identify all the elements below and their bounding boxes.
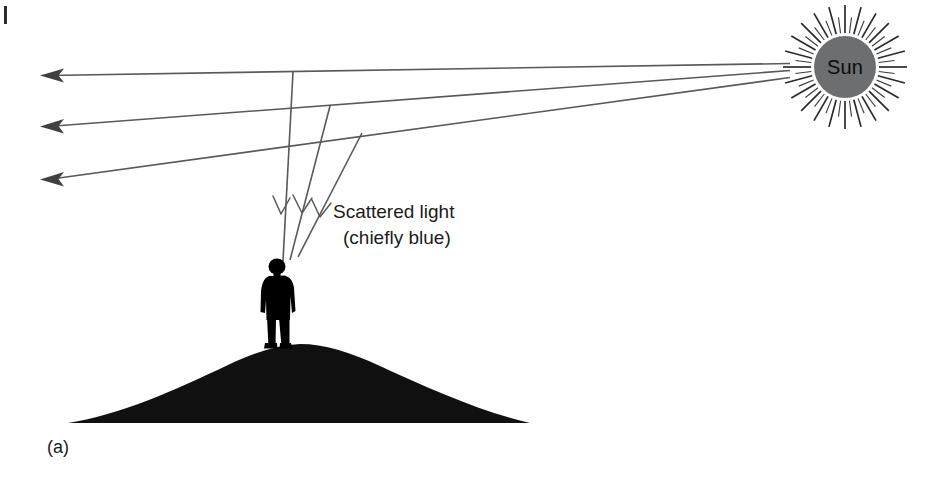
sun-spike bbox=[838, 17, 840, 33]
scattered-arrowhead-1 bbox=[273, 196, 290, 214]
direct-sunbeam-2 bbox=[48, 71, 790, 127]
sun-spike bbox=[862, 96, 876, 120]
sun-spike bbox=[879, 71, 895, 73]
scattered-light-label-line2: (chiefly blue) bbox=[343, 227, 451, 248]
sun-spike bbox=[791, 84, 815, 98]
person-silhouette bbox=[261, 259, 296, 349]
sun-spike bbox=[876, 48, 891, 54]
direct-sunbeam-3 bbox=[48, 78, 790, 180]
direct-sunbeam-1 bbox=[48, 64, 790, 76]
page-edge-artifact bbox=[4, 6, 7, 24]
sun-spike bbox=[799, 80, 814, 86]
sun-spike bbox=[879, 60, 895, 62]
panel-label: (a) bbox=[47, 437, 69, 457]
sun-spike bbox=[858, 21, 864, 36]
sun-spike bbox=[814, 96, 828, 120]
scattered-light-label-line1: Scattered light bbox=[333, 201, 455, 222]
sun-spike bbox=[791, 36, 815, 50]
sun-spike bbox=[801, 91, 821, 111]
sun-spike bbox=[826, 21, 832, 36]
sun-spike bbox=[799, 48, 814, 54]
sun-label: Sun bbox=[827, 56, 863, 78]
direct-sunbeam-group bbox=[48, 64, 790, 180]
sun-spike bbox=[874, 36, 898, 50]
left-arrowhead-group bbox=[40, 69, 64, 187]
diagram-canvas: Sun Scattered light (chiefly blue) (a) bbox=[0, 0, 943, 478]
scattered-arrowhead-group bbox=[273, 195, 331, 217]
sun-spike bbox=[849, 101, 851, 117]
scattering-diagram-figure: Sun Scattered light (chiefly blue) (a) bbox=[0, 0, 943, 478]
sun-spike bbox=[795, 60, 811, 62]
sun-spike bbox=[869, 23, 889, 43]
scattered-arrowhead-3 bbox=[312, 200, 331, 217]
sun-spike bbox=[826, 98, 832, 113]
sun-spike bbox=[801, 23, 821, 43]
scattered-ray-1 bbox=[283, 72, 293, 261]
scattered-ray-2 bbox=[290, 106, 330, 260]
sun-spike bbox=[814, 13, 828, 37]
sun-spike bbox=[876, 80, 891, 86]
sun-spike bbox=[869, 91, 889, 111]
sun-spike bbox=[838, 101, 840, 117]
hill-silhouette bbox=[68, 344, 530, 423]
sun-spike bbox=[874, 84, 898, 98]
sun-spike bbox=[862, 13, 876, 37]
sun-spike bbox=[795, 71, 811, 73]
left-arrowhead-3 bbox=[40, 172, 64, 187]
sun-spike bbox=[858, 98, 864, 113]
sun-spike bbox=[849, 17, 851, 33]
